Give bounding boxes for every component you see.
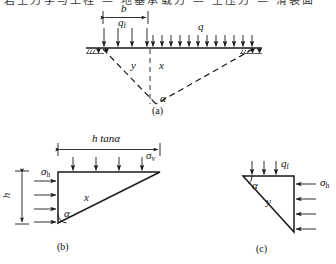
ground-support-right [240, 49, 262, 54]
arrows-sigma-h-b [34, 181, 56, 222]
label-alpha-a: α [160, 93, 166, 104]
load-arrows-q [153, 35, 252, 47]
triangle-b [58, 172, 160, 223]
arrows-qf-c [252, 161, 276, 175]
caption-c: (c) [256, 244, 267, 254]
dimension-h [15, 171, 29, 224]
label-qf-c: qf [281, 158, 289, 170]
dimension-h-tan-alpha [58, 143, 160, 156]
label-x-a: x [159, 60, 164, 71]
panel-a [86, 11, 262, 104]
figure-vector-canvas [0, 0, 336, 264]
label-alpha-b: α [64, 208, 70, 219]
failure-wedge-dashed [103, 49, 253, 104]
label-h-tan-alpha: h tanα [92, 133, 120, 144]
label-h-b: h [1, 193, 12, 199]
panel-c [243, 161, 316, 232]
caption-b: (b) [57, 242, 69, 252]
label-sigma-h-c: σh [320, 177, 329, 189]
label-x-b: x [84, 192, 89, 203]
label-qf-a: qf [118, 17, 126, 29]
arrows-sigma-h-c [296, 184, 316, 229]
label-y-a: y [131, 60, 136, 71]
load-arrows-qf [104, 28, 147, 47]
caption-a: (a) [152, 106, 163, 116]
label-q-a: q [198, 21, 204, 32]
label-alpha-c: α [252, 180, 258, 191]
label-sigma-h-b: σh [41, 166, 50, 178]
arrows-sigma-v [73, 157, 142, 171]
panel-b [15, 143, 160, 224]
label-y-c: y [266, 196, 271, 207]
figure-root: 岩土力学与工程 — 地基承载力 — 土压力 — 滑裂面 [0, 0, 336, 264]
label-sigma-v-b: σv [146, 150, 155, 162]
label-b-dimension: b [121, 3, 127, 14]
